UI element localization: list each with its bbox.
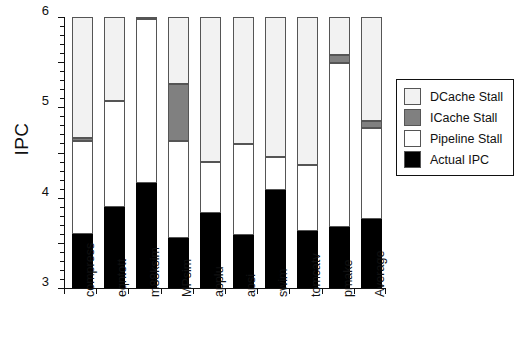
icache-swatch <box>404 109 421 126</box>
bar-pmake <box>329 17 350 288</box>
x-label-eqntott: eqntott <box>115 259 129 297</box>
segment-icache-stall <box>168 84 189 141</box>
x-label-compress: compress <box>83 243 97 297</box>
y-minor-tick <box>60 207 64 208</box>
segment-dcache-stall <box>297 17 318 165</box>
segment-pipeline-stall <box>329 63 350 227</box>
dcache-swatch <box>404 88 421 105</box>
segment-pipeline-stall <box>265 157 286 190</box>
legend-item-pipeline-stall[interactable]: Pipeline Stall <box>404 130 502 147</box>
legend-label: DCache Stall <box>430 90 503 104</box>
x-label-pmake: pmake <box>341 259 355 297</box>
segment-pipeline-stall <box>297 165 318 230</box>
x-tick <box>64 288 65 294</box>
y-minor-tick <box>60 125 64 126</box>
chart-figure: IPC 0123456 compresseqntottm88ksimMPsima… <box>0 0 523 354</box>
y-tick-label-3: 3 <box>25 281 49 282</box>
x-label-Average: Average <box>373 251 387 297</box>
y-tick-4: 4 <box>58 107 64 108</box>
segment-dcache-stall <box>168 17 189 84</box>
y-minor-tick <box>60 134 64 135</box>
legend-label: Pipeline Stall <box>430 132 502 146</box>
segment-dcache-stall <box>200 17 221 162</box>
y-minor-tick <box>60 261 64 262</box>
segment-dcache-stall <box>329 17 350 55</box>
y-minor-tick <box>60 98 64 99</box>
legend-label: ICache Stall <box>430 111 497 125</box>
y-tick-label-4: 4 <box>25 191 49 192</box>
y-minor-tick <box>60 162 64 163</box>
y-minor-tick <box>60 89 64 90</box>
y-minor-tick <box>60 116 64 117</box>
y-minor-tick <box>60 53 64 54</box>
segment-pipeline-stall <box>233 144 254 235</box>
segment-dcache-stall <box>72 17 93 138</box>
legend-item-icache-stall[interactable]: ICache Stall <box>404 109 497 126</box>
actual-swatch <box>404 151 421 168</box>
segment-dcache-stall <box>361 17 382 121</box>
segment-pipeline-stall <box>72 141 93 234</box>
y-tick-1: 1 <box>58 243 64 244</box>
y-axis-label: IPC <box>11 94 33 184</box>
y-tick-3: 3 <box>58 153 64 154</box>
y-minor-tick <box>60 252 64 253</box>
segment-pipeline-stall <box>136 19 157 183</box>
segment-icache-stall <box>329 55 350 63</box>
segment-pipeline-stall <box>361 128 382 220</box>
y-tick-5: 5 <box>58 62 64 63</box>
bar-swim <box>265 17 286 288</box>
x-label-swim: swim <box>276 269 290 297</box>
segment-pipeline-stall <box>200 162 221 213</box>
segment-pipeline-stall <box>104 101 125 206</box>
y-minor-tick <box>60 44 64 45</box>
y-minor-tick <box>60 26 64 27</box>
bar-Average <box>361 17 382 288</box>
bar-eqntott <box>104 17 125 288</box>
y-minor-tick <box>60 180 64 181</box>
legend-item-dcache-stall[interactable]: DCache Stall <box>404 88 503 105</box>
x-label-m88ksim: m88ksim <box>148 247 162 297</box>
y-minor-tick <box>60 35 64 36</box>
x-label-applu: applu <box>212 266 226 297</box>
y-tick-label-6: 6 <box>25 10 49 11</box>
plot-area: 0123456 compresseqntottm88ksimMPsimapplu… <box>64 17 386 288</box>
bar-applu <box>200 17 221 288</box>
segment-pipeline-stall <box>168 141 189 238</box>
legend-item-actual-ipc[interactable]: Actual IPC <box>404 151 489 168</box>
y-minor-tick <box>60 225 64 226</box>
y-tick-label-5: 5 <box>25 100 49 101</box>
segment-dcache-stall <box>233 17 254 144</box>
pipeline-swatch <box>404 130 421 147</box>
y-minor-tick <box>60 189 64 190</box>
y-minor-tick <box>60 270 64 271</box>
legend-label: Actual IPC <box>430 153 489 167</box>
legend: DCache StallICache StallPipeline StallAc… <box>396 79 514 176</box>
y-axis-line <box>64 17 65 288</box>
scan-artifact-text <box>4 345 304 354</box>
x-label-MPsim: MPsim <box>180 259 194 297</box>
segment-dcache-stall <box>265 17 286 157</box>
x-label-tomcatv: tomcatv <box>309 253 323 297</box>
y-tick-2: 2 <box>58 198 64 199</box>
bar-MPsim <box>168 17 189 288</box>
bar-tomcatv <box>297 17 318 288</box>
y-minor-tick <box>60 143 64 144</box>
y-minor-tick <box>60 80 64 81</box>
x-label-apsi: apsi <box>244 274 258 297</box>
y-minor-tick <box>60 279 64 280</box>
bar-apsi <box>233 17 254 288</box>
y-minor-tick <box>60 216 64 217</box>
y-minor-tick <box>60 171 64 172</box>
segment-dcache-stall <box>104 17 125 101</box>
y-tick-6: 6 <box>58 17 64 18</box>
y-minor-tick <box>60 71 64 72</box>
y-minor-tick <box>60 234 64 235</box>
segment-icache-stall <box>361 121 382 128</box>
